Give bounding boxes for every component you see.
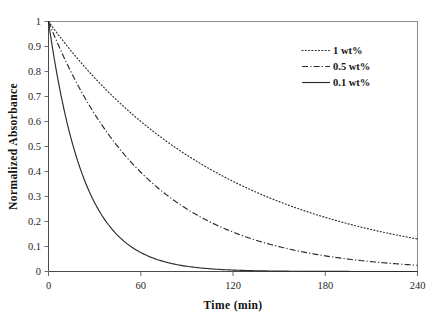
x-tick-label: 240 bbox=[410, 280, 426, 291]
plot-frame bbox=[49, 22, 418, 272]
x-tick-label: 180 bbox=[317, 280, 333, 291]
y-tick-label: 0.3 bbox=[28, 191, 41, 202]
chart-legend: 1 wt% 0.5 wt% 0.1 wt% bbox=[302, 45, 370, 88]
y-tick-label: 1 bbox=[36, 16, 41, 27]
series-curve-05wt bbox=[49, 22, 418, 266]
x-tick-label: 120 bbox=[225, 280, 241, 291]
y-tick-marks bbox=[45, 22, 49, 272]
x-tick-labels: 0 60 120 180 240 bbox=[46, 280, 426, 291]
x-tick-marks bbox=[49, 272, 418, 277]
x-tick-label: 0 bbox=[46, 280, 51, 291]
y-tick-label: 0.5 bbox=[28, 141, 41, 152]
y-tick-label: 0.6 bbox=[28, 116, 41, 127]
y-tick-label: 0.8 bbox=[28, 66, 41, 77]
legend-label-1wt: 1 wt% bbox=[333, 45, 362, 56]
y-tick-label: 0.2 bbox=[28, 216, 41, 227]
series-curve-01wt bbox=[49, 22, 418, 272]
y-tick-label: 0.4 bbox=[28, 166, 42, 177]
x-axis-title: Time (min) bbox=[203, 299, 262, 312]
x-tick-label: 60 bbox=[136, 280, 147, 291]
y-tick-label: 0.1 bbox=[28, 241, 41, 252]
chart-canvas: 0 60 120 180 240 0 0.1 0.2 0.3 0.4 0.5 0… bbox=[0, 0, 436, 322]
y-axis-title: Normalized Absorbance bbox=[7, 83, 19, 210]
chart-figure: 0 60 120 180 240 0 0.1 0.2 0.3 0.4 0.5 0… bbox=[0, 0, 436, 322]
y-tick-label: 0.7 bbox=[28, 91, 41, 102]
legend-label-05wt: 0.5 wt% bbox=[333, 61, 370, 72]
y-tick-label: 0.9 bbox=[28, 41, 41, 52]
y-tick-labels: 0 0.1 0.2 0.3 0.4 0.5 0.6 0.7 0.8 0.9 1 bbox=[28, 16, 42, 277]
legend-label-01wt: 0.1 wt% bbox=[333, 77, 370, 88]
y-tick-label: 0 bbox=[36, 266, 41, 277]
